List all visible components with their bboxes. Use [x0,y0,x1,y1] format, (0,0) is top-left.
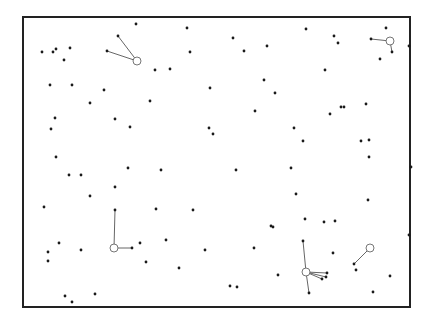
data-point [89,102,92,105]
data-point [135,23,138,26]
data-point [385,27,388,30]
data-point [154,69,157,72]
data-point [139,242,142,245]
hub-member-point [370,38,373,41]
hub-member-point [321,278,324,281]
data-point [379,58,382,61]
hub-member-point [308,292,311,295]
data-point [54,117,57,120]
data-point [114,118,117,121]
hub-circle-icon [133,57,141,65]
data-point [365,103,368,106]
data-point [43,206,46,209]
data-point [103,89,106,92]
data-point [145,261,148,264]
data-point [372,291,375,294]
hub-circle-icon [386,37,394,45]
data-point [368,156,371,159]
data-point [80,174,83,177]
data-point [63,59,66,62]
data-point [160,169,163,172]
data-point [64,295,67,298]
data-point [47,251,50,254]
data-point [254,110,257,113]
data-point [232,37,235,40]
data-point [355,269,358,272]
hub-link [303,241,306,272]
data-point [333,35,336,38]
data-point [236,286,239,289]
data-point [410,166,413,169]
data-point [208,127,211,130]
hub-member-point [326,272,329,275]
data-point [94,293,97,296]
data-point [277,274,280,277]
data-point [343,106,346,109]
data-point [52,51,55,54]
data-point [367,199,370,202]
hub-circle-icon [366,244,374,252]
data-point [71,301,74,304]
data-point [263,79,266,82]
hub-member-point [114,209,117,212]
data-point [49,84,52,87]
data-point [266,45,269,48]
hub-member-point [325,276,328,279]
data-point [127,167,130,170]
data-point [408,45,411,48]
data-point [55,156,58,159]
data-point [323,221,326,224]
data-point [41,51,44,54]
data-point [368,139,371,142]
data-point [360,140,363,143]
data-point [253,247,256,250]
data-point [204,249,207,252]
plot-frame [23,17,410,307]
data-point [293,127,296,130]
hub-circles [110,37,394,276]
data-point [408,234,411,237]
hub-member-point [353,263,356,266]
data-point [212,133,215,136]
hub-link [107,51,137,61]
data-point [58,242,61,245]
hub-circle-icon [302,268,310,276]
data-point [324,69,327,72]
data-point [340,106,343,109]
hub-link [114,210,115,248]
data-point [80,249,83,252]
data-point [189,51,192,54]
data-point [305,28,308,31]
data-point [290,167,293,170]
point-pattern-figure [0,0,432,323]
hub-member-point [106,50,109,53]
hub-link [118,36,137,61]
data-point [334,220,337,223]
data-point [169,68,172,71]
data-point [89,195,92,198]
data-point [149,100,152,103]
data-point [295,193,298,196]
data-point [229,285,232,288]
data-point [68,174,71,177]
hub-member-point [131,247,134,250]
data-point [329,113,332,116]
data-point [178,267,181,270]
data-point [71,84,74,87]
data-point [235,169,238,172]
data-point [55,48,58,51]
data-point [50,128,53,131]
data-point [155,208,158,211]
data-point [389,275,392,278]
data-point [192,209,195,212]
data-point [186,27,189,30]
hub-member-point [391,51,394,54]
data-point [304,218,307,221]
data-point [114,186,117,189]
data-point [274,92,277,95]
data-point [243,50,246,53]
data-point [209,87,212,90]
data-point [302,140,305,143]
hub-member-point [117,35,120,38]
data-point [129,126,132,129]
